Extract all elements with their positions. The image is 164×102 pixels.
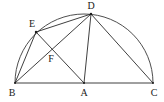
point-C [152, 82, 154, 84]
geometry-diagram: B A C D E F [0, 0, 164, 102]
label-A: A [80, 87, 88, 98]
label-B: B [9, 87, 16, 98]
point-A [83, 82, 85, 84]
point-E [35, 31, 37, 33]
semicircle-arc [15, 14, 153, 83]
label-C: C [151, 87, 158, 98]
segment-BD [15, 14, 91, 83]
segment-AD [84, 14, 91, 83]
segment-BE [15, 32, 36, 83]
point-B [14, 82, 16, 84]
point-D [90, 13, 92, 15]
label-F: F [48, 53, 54, 64]
label-D: D [87, 0, 94, 11]
label-E: E [29, 18, 35, 29]
